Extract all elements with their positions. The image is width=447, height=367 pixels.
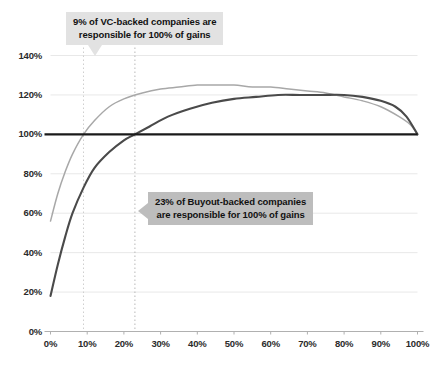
x-axis-tick-label: 30% [141,338,181,349]
buyout-callout-line-1: 23% of Buyout-backed companies [155,196,306,209]
x-axis-tick-label: 0% [31,338,71,349]
y-axis-tick-label: 100% [8,128,42,139]
y-axis-tick-label: 40% [8,247,42,258]
buyout-callout-pointer-icon [138,203,148,219]
series-lines [51,85,418,296]
y-axis-tick-label: 80% [8,168,42,179]
buyout-callout-line-2: are responsible for 100% of gains [155,209,306,222]
chart-plot-area [0,0,447,367]
x-axis-tick-label: 20% [104,338,144,349]
x-axis-tick-label: 80% [324,338,364,349]
vc-callout-pointer-icon [88,45,102,56]
vc-callout-line-1: 9% of VC-backed companies are [73,16,216,29]
buyout-callout-box: 23% of Buyout-backed companies are respo… [148,192,313,225]
x-axis-tick-label: 10% [67,338,107,349]
x-axis-tick-label: 100% [398,338,438,349]
x-axis-tick-label: 50% [214,338,254,349]
y-axis-tick-label: 120% [8,89,42,100]
chart-container: 140%120%100%80%60%40%20%0% 0%10%20%30%40… [0,0,447,367]
x-axis-tick-label: 40% [177,338,217,349]
buyout-callout: 23% of Buyout-backed companies are respo… [148,192,313,225]
x-axis-tick-label: 60% [251,338,291,349]
x-axis-tick-label: 70% [287,338,327,349]
y-axis-tick-label: 20% [8,286,42,297]
vertical-reference-lines [84,48,135,332]
x-axis-tick-label: 90% [361,338,401,349]
vc-callout-box: 9% of VC-backed companies are responsibl… [66,12,223,45]
y-axis-tick-label: 140% [8,50,42,61]
y-axis-tick-label: 0% [8,326,42,337]
vc-callout-line-2: responsible for 100% of gains [73,29,216,42]
y-axis-tick-label: 60% [8,207,42,218]
vc-callout: 9% of VC-backed companies are responsibl… [66,12,223,45]
